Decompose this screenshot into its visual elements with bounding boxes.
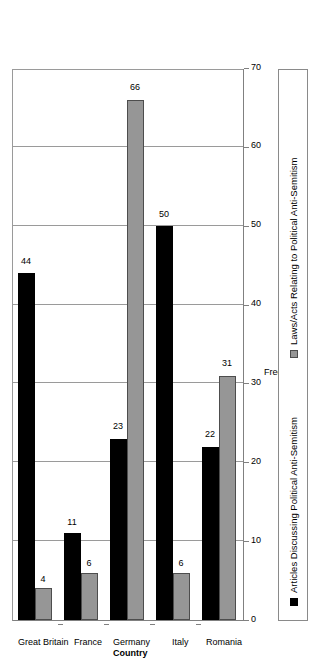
value-tick-label: 70 [251, 62, 261, 72]
bar-group: 11 6 [62, 69, 102, 620]
bar-laws[interactable] [173, 573, 190, 620]
bar-value-label: 23 [113, 422, 123, 431]
bar-articles[interactable] [18, 273, 35, 620]
value-tick-label: 30 [251, 377, 261, 387]
value-tick-label: 0 [251, 614, 256, 624]
plot-area: 44 4 11 6 23 66 50 [12, 69, 244, 621]
bar-value-label: 31 [222, 359, 232, 368]
bar-group: 50 6 [154, 69, 194, 620]
bar-value-label: 6 [86, 559, 91, 568]
value-tick [244, 305, 249, 306]
value-tick [244, 541, 249, 542]
bar-value-label: 66 [130, 83, 140, 92]
bar-value-label: 22 [205, 430, 215, 439]
legend: Articles Discussing Political Anti-Semit… [278, 69, 308, 621]
value-tick [244, 147, 249, 148]
value-tick [244, 462, 249, 463]
legend-entry-laws[interactable]: Laws/Acts Relating to Political Anti-Sem… [288, 158, 299, 358]
bar-chart-figure: 44 4 11 6 23 66 50 [0, 0, 322, 669]
bar-laws[interactable] [35, 588, 52, 620]
category-label-romania: Romania [206, 637, 242, 647]
category-label-germany: Germany [113, 637, 150, 647]
bar-articles[interactable] [202, 447, 219, 620]
bar-articles[interactable] [156, 226, 173, 620]
bar-value-label: 6 [178, 559, 183, 568]
bar-laws[interactable] [81, 573, 98, 620]
category-tick [196, 624, 201, 625]
bar-articles[interactable] [64, 533, 81, 620]
bar-group: 23 66 [108, 69, 148, 620]
bar-articles[interactable] [110, 439, 127, 620]
bar-value-label: 4 [40, 575, 45, 584]
value-tick [244, 620, 249, 621]
value-tick-label: 10 [251, 535, 261, 545]
value-tick [244, 68, 249, 69]
value-tick [244, 383, 249, 384]
chart-rotation-wrapper: 44 4 11 6 23 66 50 [0, 0, 322, 669]
value-tick-label: 60 [251, 140, 261, 150]
bar-value-label: 44 [21, 257, 31, 266]
legend-entry-articles[interactable]: Articles Discussing Political Anti-Semit… [288, 417, 299, 606]
category-tick [104, 624, 109, 625]
category-tick [58, 624, 63, 625]
category-axis-title: Country [113, 648, 148, 658]
bar-group: 44 4 [16, 69, 56, 620]
gray-square-icon [290, 350, 298, 358]
value-tick-label: 20 [251, 456, 261, 466]
bar-value-label: 50 [159, 210, 169, 219]
black-square-icon [290, 598, 298, 606]
category-label-great-britain: Great Britain [18, 637, 69, 647]
value-tick-label: 40 [251, 298, 261, 308]
category-label-italy: Italy [172, 637, 189, 647]
value-tick-label: 50 [251, 219, 261, 229]
legend-label: Articles Discussing Political Anti-Semit… [288, 417, 299, 593]
bar-value-label: 11 [67, 518, 76, 527]
category-label-france: France [74, 637, 102, 647]
category-tick [150, 624, 155, 625]
legend-label: Laws/Acts Relating to Political Anti-Sem… [288, 158, 299, 345]
value-tick [244, 226, 249, 227]
bar-laws[interactable] [219, 376, 236, 620]
bar-group: 22 31 [200, 69, 240, 620]
bar-laws[interactable] [127, 100, 144, 620]
